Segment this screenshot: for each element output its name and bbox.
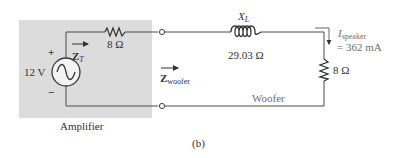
terminal-bottom [159, 103, 164, 108]
current-value: = 362 mA [337, 41, 382, 53]
source-plus-sign: + [48, 46, 54, 58]
current-arrow-icon [315, 28, 329, 44]
inductor-value: 29.03 Ω [228, 49, 264, 61]
load-wiring [165, 32, 324, 106]
inductor-label: XL [237, 10, 250, 24]
woofer-resistor-icon [320, 59, 328, 81]
zwoofer-label: Zwoofer [160, 72, 190, 86]
amplifier-label: Amplifier [60, 120, 104, 132]
inductor-icon [231, 26, 261, 37]
ac-source-icon [52, 58, 80, 86]
terminal-top [159, 29, 164, 34]
woofer-resistor-value: 8 Ω [333, 64, 349, 76]
internal-resistor-value: 8 Ω [107, 38, 123, 50]
source-voltage-label: 12 V [24, 66, 46, 78]
source-minus-sign: − [48, 86, 54, 98]
current-label: Ispeaker [337, 27, 366, 41]
figure-label: (b) [192, 137, 205, 150]
circuit-diagram: + − 12 V 8 Ω ZT XL 29.03 Ω Ispeaker = 36… [0, 0, 401, 158]
woofer-label: Woofer [252, 92, 285, 104]
